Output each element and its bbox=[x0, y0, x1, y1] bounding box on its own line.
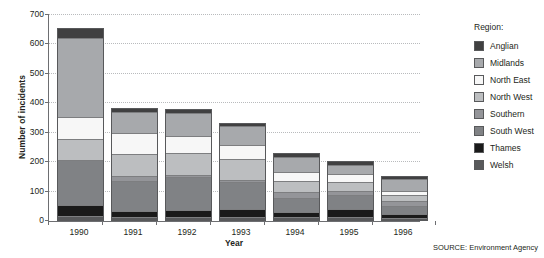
bar-segment-1990-welsh bbox=[58, 217, 103, 220]
source-note: SOURCE: Environment Agency bbox=[433, 243, 538, 252]
legend-swatch-icon bbox=[474, 75, 484, 85]
y-tick-mark bbox=[45, 132, 48, 133]
y-tick-label: 300 bbox=[14, 128, 44, 136]
bar-1994 bbox=[273, 153, 320, 221]
legend-item-label: Anglian bbox=[490, 41, 518, 51]
x-tick-label-1993: 1993 bbox=[221, 227, 261, 237]
bar-segment-1993-midlands bbox=[220, 127, 265, 147]
legend-swatch-icon bbox=[474, 92, 484, 102]
bar-segment-1994-south-west bbox=[274, 199, 319, 213]
legend-item-midlands[interactable]: Midlands bbox=[474, 54, 542, 71]
x-tick-label-1990: 1990 bbox=[59, 227, 99, 237]
bar-1990 bbox=[57, 28, 104, 221]
bar-segment-1992-north-west bbox=[166, 154, 211, 176]
bar-segment-1995-south-west bbox=[328, 196, 373, 210]
y-tick-label: 400 bbox=[14, 98, 44, 106]
legend-item-label: Southern bbox=[490, 109, 525, 119]
x-tick-mark bbox=[372, 221, 373, 225]
y-tick-mark bbox=[45, 161, 48, 162]
legend-item-north-west[interactable]: North West bbox=[474, 88, 542, 105]
y-tick-label: 700 bbox=[14, 10, 44, 18]
x-tick-mark bbox=[210, 221, 211, 225]
legend-item-thames[interactable]: Thames bbox=[474, 139, 542, 156]
stacked-bar-chart: Number of incidents 01002003004005006007… bbox=[0, 0, 544, 258]
bar-segment-1992-south-west bbox=[166, 178, 211, 211]
bar-segment-1992-welsh bbox=[166, 218, 211, 220]
bar-1992 bbox=[165, 109, 212, 221]
bar-1991 bbox=[111, 108, 158, 221]
x-axis-title: Year bbox=[48, 238, 420, 248]
bar-segment-1992-thames bbox=[166, 211, 211, 218]
legend-swatch-icon bbox=[474, 160, 484, 170]
legend-item-southern[interactable]: Southern bbox=[474, 105, 542, 122]
bar-segment-1990-north-east bbox=[58, 118, 103, 140]
x-tick-mark bbox=[435, 221, 436, 225]
legend-item-anglian[interactable]: Anglian bbox=[474, 37, 542, 54]
bar-segment-1994-north-east bbox=[274, 173, 319, 182]
bar-segment-1995-north-west bbox=[328, 183, 373, 192]
legend-item-label: North East bbox=[490, 75, 530, 85]
x-tick-label-1995: 1995 bbox=[329, 227, 369, 237]
bar-segment-1993-north-west bbox=[220, 160, 265, 181]
plot-area: 0100200300400500600700 19901991199219931… bbox=[48, 14, 420, 222]
bar-segment-1991-midlands bbox=[112, 113, 157, 134]
bar-segment-1991-north-west bbox=[112, 155, 157, 177]
x-tick-label-1992: 1992 bbox=[167, 227, 207, 237]
legend-item-label: Welsh bbox=[490, 160, 513, 170]
legend-items: AnglianMidlandsNorth EastNorth WestSouth… bbox=[474, 37, 542, 173]
x-tick-label-1991: 1991 bbox=[113, 227, 153, 237]
bar-segment-1990-anglian bbox=[58, 29, 103, 39]
x-tick-label-1994: 1994 bbox=[275, 227, 315, 237]
bar-segment-1995-thames bbox=[328, 210, 373, 219]
y-tick-mark bbox=[45, 102, 48, 103]
legend-item-label: Thames bbox=[490, 143, 521, 153]
y-tick-mark bbox=[45, 73, 48, 74]
y-tick-mark bbox=[45, 43, 48, 44]
legend-item-label: North West bbox=[490, 92, 532, 102]
bar-segment-1994-north-west bbox=[274, 182, 319, 193]
legend-item-label: South West bbox=[490, 126, 534, 136]
legend-swatch-icon bbox=[474, 109, 484, 119]
bar-segment-1991-south-west bbox=[112, 182, 157, 212]
bar-segment-1991-welsh bbox=[112, 218, 157, 220]
bar-segment-1993-thames bbox=[220, 210, 265, 219]
legend-swatch-icon bbox=[474, 58, 484, 68]
bar-segment-1993-north-east bbox=[220, 146, 265, 160]
bar-group bbox=[49, 14, 420, 222]
bar-segment-1995-welsh bbox=[328, 218, 373, 220]
x-tick-label-1996: 1996 bbox=[383, 227, 423, 237]
bar-segment-1992-midlands bbox=[166, 114, 211, 137]
legend-swatch-icon bbox=[474, 143, 484, 153]
y-tick-label: 500 bbox=[14, 69, 44, 77]
x-tick-mark bbox=[102, 221, 103, 225]
legend-item-north-east[interactable]: North East bbox=[474, 71, 542, 88]
legend-swatch-icon bbox=[474, 41, 484, 51]
bar-segment-1994-welsh bbox=[274, 218, 319, 220]
bar-1996 bbox=[381, 176, 428, 221]
bar-segment-1993-welsh bbox=[220, 218, 265, 220]
y-tick-label: 100 bbox=[14, 187, 44, 195]
bar-segment-1994-midlands bbox=[274, 158, 319, 173]
legend-title: Region: bbox=[474, 22, 542, 32]
y-tick-label: 600 bbox=[14, 39, 44, 47]
bar-segment-1990-south-west bbox=[58, 161, 103, 206]
bar-segment-1990-midlands bbox=[58, 39, 103, 118]
y-tick-label: 0 bbox=[14, 216, 44, 224]
bar-segment-1996-south-west bbox=[382, 207, 427, 215]
y-tick-mark bbox=[45, 14, 48, 15]
bar-1995 bbox=[327, 161, 374, 221]
bar-segment-1995-midlands bbox=[328, 166, 373, 175]
legend-item-welsh[interactable]: Welsh bbox=[474, 156, 542, 173]
bar-segment-1996-midlands bbox=[382, 180, 427, 192]
bar-1993 bbox=[219, 123, 266, 221]
y-tick-label: 200 bbox=[14, 157, 44, 165]
y-tick-mark bbox=[45, 191, 48, 192]
x-tick-mark bbox=[264, 221, 265, 225]
bar-segment-1992-north-east bbox=[166, 137, 211, 154]
bar-segment-1990-thames bbox=[58, 206, 103, 217]
bar-segment-1991-north-east bbox=[112, 134, 157, 155]
bar-segment-1996-welsh bbox=[382, 219, 427, 220]
x-tick-mark bbox=[318, 221, 319, 225]
legend: Region: AnglianMidlandsNorth EastNorth W… bbox=[474, 22, 542, 173]
legend-item-south-west[interactable]: South West bbox=[474, 122, 542, 139]
